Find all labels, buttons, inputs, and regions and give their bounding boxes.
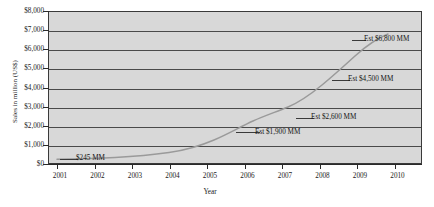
annotation-1900-mm: Est $1,900 MM xyxy=(255,129,300,137)
annotation-2600-mm: Est $2,600 MM xyxy=(311,114,356,122)
gridline-1000 xyxy=(49,146,421,147)
y-tick-mark-2000 xyxy=(43,126,49,127)
annotation-6800-mm: Est $6,800 MM xyxy=(364,36,409,44)
y-tick-label-1000: $1,000 xyxy=(24,142,44,149)
x-tick-mark-2005 xyxy=(207,164,208,169)
annotation-245-mm: $245 MM xyxy=(76,155,105,163)
gridline-7000 xyxy=(49,31,421,32)
x-tick-label-2008: 2008 xyxy=(303,173,343,180)
x-tick-label-2004: 2004 xyxy=(153,173,193,180)
gridline-6000 xyxy=(49,50,421,51)
x-tick-mark-2007 xyxy=(282,164,283,169)
x-tick-label-2006: 2006 xyxy=(228,173,268,180)
sales-growth-chart: $8,000 $7,000 $6,000 $5,000 $4,000 $3,00… xyxy=(0,0,434,207)
x-tick-label-2002: 2002 xyxy=(78,173,118,180)
gridline-5000 xyxy=(49,69,421,70)
y-tick-mark-1000 xyxy=(43,145,49,146)
y-tick-label-4000: $4,000 xyxy=(24,85,44,92)
y-tick-label-7000: $7,000 xyxy=(24,27,44,34)
x-axis-title: Year xyxy=(203,189,216,196)
x-axis-title-wrap: Year xyxy=(0,189,434,196)
annotation-4500-mm: Est $4,500 MM xyxy=(348,76,393,84)
x-tick-label-2010: 2010 xyxy=(378,173,418,180)
x-tick-label-2007: 2007 xyxy=(265,173,305,180)
x-tick-mark-2010 xyxy=(395,164,396,169)
x-tick-mark-2003 xyxy=(132,164,133,169)
x-tick-mark-2001 xyxy=(57,164,58,169)
gridline-4000 xyxy=(49,89,421,90)
y-tick-label-2000: $2,000 xyxy=(24,123,44,130)
y-axis-title: Sales in million (US$) xyxy=(12,44,19,140)
y-tick-label-3000: $3,000 xyxy=(24,104,44,111)
gridline-2000 xyxy=(49,127,421,128)
y-tick-label-5000: $5,000 xyxy=(24,65,44,72)
x-tick-mark-2002 xyxy=(95,164,96,169)
y-tick-mark-5000 xyxy=(43,68,49,69)
y-tick-mark-4000 xyxy=(43,88,49,89)
y-tick-mark-6000 xyxy=(43,49,49,50)
x-axis-line xyxy=(48,164,422,165)
y-tick-label-6000: $6,000 xyxy=(24,46,44,53)
y-tick-mark-7000 xyxy=(43,30,49,31)
x-tick-label-2003: 2003 xyxy=(115,173,155,180)
y-tick-label-8000: $8,000 xyxy=(24,8,44,15)
x-tick-mark-2004 xyxy=(170,164,171,169)
plot-area xyxy=(48,11,422,164)
y-tick-mark-8000 xyxy=(43,11,49,12)
y-tick-mark-3000 xyxy=(43,107,49,108)
x-tick-label-2001: 2001 xyxy=(40,173,80,180)
x-tick-label-2009: 2009 xyxy=(340,173,380,180)
x-tick-mark-2006 xyxy=(245,164,246,169)
x-tick-mark-2009 xyxy=(357,164,358,169)
gridline-3000 xyxy=(49,108,421,109)
x-tick-mark-2008 xyxy=(320,164,321,169)
x-tick-label-2005: 2005 xyxy=(190,173,230,180)
